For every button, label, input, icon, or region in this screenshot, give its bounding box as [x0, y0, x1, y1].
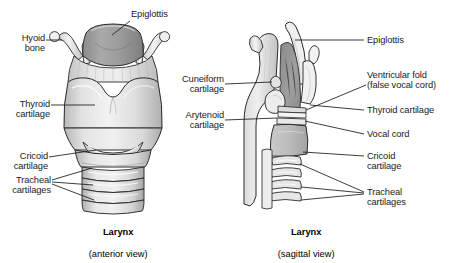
label-ventricular-fold: Ventricular fold (false vocal cord) [367, 70, 436, 91]
caption-sagittal: Larynx (sagittal view) [251, 216, 351, 263]
thyroid-cartilage-sagittal-shape [301, 61, 316, 104]
tracheal-cartilages-sagittal-shape [269, 156, 302, 201]
anterior-larynx-drawing [46, 21, 170, 214]
label-cuneiform-cartilage: Cuneiform cartilage [170, 74, 224, 95]
leader-thyroid-cartilage-sagittal [310, 105, 364, 110]
label-hyoid-bone: Hyoid bone [0, 33, 45, 54]
caption-anterior: Larynx (anterior view) [63, 216, 163, 263]
label-thyroid-cartilage-sagittal: Thyroid cartilage [367, 105, 434, 115]
label-arytenoid-cartilage: Arytenoid cartilage [170, 110, 224, 131]
cricoid-cartilage-sagittal-shape [270, 124, 307, 156]
cricoid-cartilage-shape [64, 128, 162, 150]
label-tracheal-cartilages-anterior: Tracheal cartilages [0, 175, 51, 196]
label-cricoid-cartilage-sagittal: Cricoid cartilage [367, 151, 401, 172]
label-epiglottis-anterior: Epiglottis [131, 9, 168, 19]
caption-anterior-title: Larynx [103, 227, 134, 237]
label-cricoid-cartilage-anterior: Cricoid cartilage [0, 151, 48, 172]
leader-cricoid-cartilage-sagittal [303, 152, 364, 156]
sagittal-larynx-drawing [225, 22, 366, 209]
label-tracheal-cartilages-sagittal: Tracheal cartilages [367, 187, 406, 208]
caption-anterior-sub: (anterior view) [89, 249, 148, 259]
leader-tracheal-sagittal-3 [301, 194, 364, 200]
label-epiglottis-sagittal: Epiglottis [367, 35, 404, 45]
leader-vocal-cord [305, 121, 364, 134]
tracheal-cartilages-shape [82, 167, 144, 214]
caption-sagittal-title: Larynx [291, 227, 322, 237]
label-vocal-cord: Vocal cord [367, 129, 409, 139]
caption-sagittal-sub: (sagittal view) [278, 249, 335, 259]
label-thyroid-cartilage-anterior: Thyroid cartilage [0, 99, 50, 120]
